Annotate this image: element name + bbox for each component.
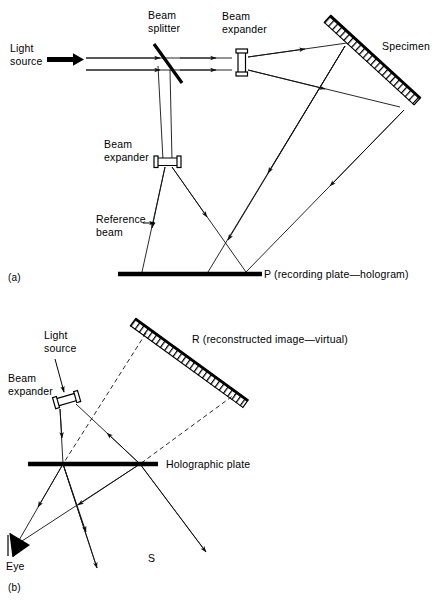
diffracted-rays-b	[18, 464, 206, 568]
holographic-plate-label-b: Holographic plate	[166, 458, 250, 470]
beam-expander-label-b-line2: expander	[8, 385, 53, 397]
object-beam-rays-a	[248, 43, 400, 107]
s-marker-label-b: S	[148, 552, 155, 564]
reference-beam-label-a-line1: Reference	[96, 213, 146, 225]
figure-root: Light source Beam splitter Beam expander…	[0, 0, 432, 600]
light-source-label-b-line2: source	[44, 342, 76, 354]
beam-expander-reference-a	[154, 156, 181, 168]
illumination-rays-b	[60, 404, 140, 464]
reconstructed-image-bar-b	[130, 318, 248, 408]
beam-expander-object-a	[236, 49, 248, 76]
specimen-label-a: Specimen	[382, 40, 430, 52]
virtual-image-dashed-rays-b	[63, 333, 238, 464]
holography-diagram: Light source Beam splitter Beam expander…	[0, 0, 432, 600]
beam-expander-b	[53, 390, 81, 408]
panel-a: Light source Beam splitter Beam expander…	[8, 9, 430, 283]
light-source-label-a-line1: Light	[10, 42, 34, 54]
recording-plate-label-a: P (recording plate—hologram)	[264, 268, 409, 280]
panel-label-a: (a)	[8, 272, 21, 283]
reference-beam-rays-a	[158, 66, 172, 160]
beam-splitter-label-a-line1: Beam	[148, 9, 176, 21]
reference-spread-rays-a	[142, 167, 246, 272]
beam-expander-reference-label-a-line2: expander	[104, 151, 149, 163]
scattered-object-rays-a	[208, 46, 404, 272]
panel-b: Light source Beam expander R (reconstruc…	[6, 318, 348, 593]
light-source-label-a-line2: source	[10, 55, 42, 67]
beam-splitter-label-a-line2: splitter	[148, 22, 180, 34]
reconstructed-image-label-b: R (reconstructed image—virtual)	[192, 333, 348, 345]
beam-expander-reference-label-a-line1: Beam	[104, 138, 132, 150]
light-source-label-b-line1: Light	[44, 329, 68, 341]
beam-expander-object-label-a-line1: Beam	[222, 10, 250, 22]
beam-expander-object-label-a-line2: expander	[222, 23, 267, 35]
incoming-beam-rays-a	[86, 58, 232, 70]
panel-label-b: (b)	[8, 582, 21, 593]
light-source-arrow-a	[47, 53, 84, 66]
eye-icon-b	[8, 533, 30, 557]
reference-beam-label-a-line2: beam	[96, 226, 123, 238]
light-source-leader-b	[55, 359, 64, 392]
eye-label-b: Eye	[6, 560, 25, 572]
beam-expander-label-b-line1: Beam	[8, 372, 36, 384]
